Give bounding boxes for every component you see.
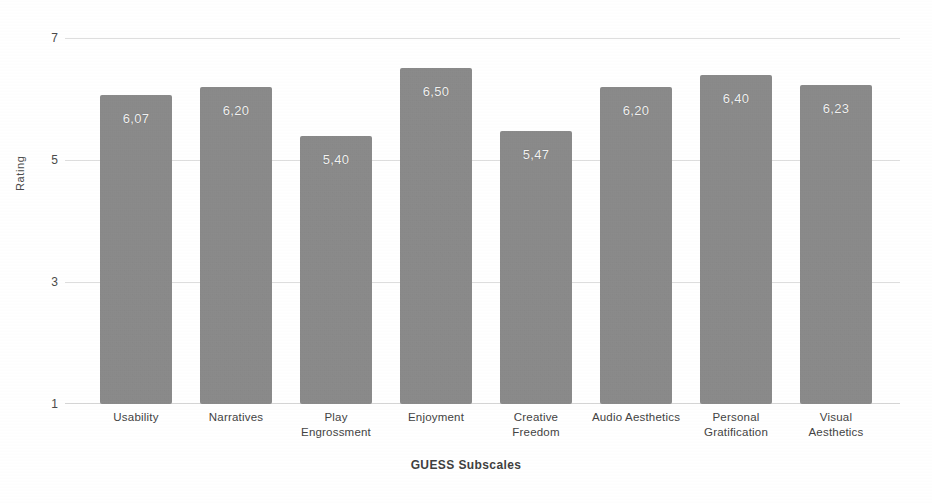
- x-label-play-engrossment-line2: Engrossment: [290, 425, 382, 440]
- x-label-usability-line1: Usability: [90, 410, 182, 425]
- x-label-usability: Usability: [90, 410, 182, 425]
- bar-group-usability: 6,07: [100, 38, 172, 404]
- plot-area: 6,07 6,20 5,40 6,50 5,47: [65, 38, 900, 404]
- bar-play-engrossment[interactable]: 5,40: [300, 136, 372, 404]
- x-label-visual-aesthetics: Visual Aesthetics: [790, 410, 882, 440]
- bar-group-audio-aesthetics: 6,20: [600, 38, 672, 404]
- x-label-enjoyment-line1: Enjoyment: [390, 410, 482, 425]
- bar-audio-aesthetics[interactable]: 6,20: [600, 87, 672, 404]
- bar-enjoyment[interactable]: 6,50: [400, 68, 472, 404]
- y-tick-3: 3: [12, 275, 58, 289]
- bar-creative-freedom[interactable]: 5,47: [500, 131, 572, 404]
- x-label-personal-gratification-line1: Personal: [686, 410, 786, 425]
- bar-chart: 7 5 3 1 Rating 6,07 6,20 5,40: [0, 0, 932, 503]
- y-axis-ticks: 7 5 3 1: [0, 38, 58, 404]
- bar-value-enjoyment: 6,50: [400, 84, 472, 99]
- x-label-creative-freedom-line2: Freedom: [490, 425, 582, 440]
- bar-value-visual-aesthetics: 6,23: [800, 101, 872, 116]
- x-label-play-engrossment-line1: Play: [290, 410, 382, 425]
- bar-value-usability: 6,07: [100, 111, 172, 126]
- x-label-creative-freedom: Creative Freedom: [490, 410, 582, 440]
- bar-group-personal-gratification: 6,40: [700, 38, 772, 404]
- bar-group-play-engrossment: 5,40: [300, 38, 372, 404]
- bar-usability[interactable]: 6,07: [100, 95, 172, 404]
- bar-value-creative-freedom: 5,47: [500, 147, 572, 162]
- x-label-play-engrossment: Play Engrossment: [290, 410, 382, 440]
- x-label-enjoyment: Enjoyment: [390, 410, 482, 425]
- bar-narratives[interactable]: 6,20: [200, 87, 272, 404]
- bar-group-enjoyment: 6,50: [400, 38, 472, 404]
- bar-value-personal-gratification: 6,40: [700, 91, 772, 106]
- bar-visual-aesthetics[interactable]: 6,23: [800, 85, 872, 404]
- x-label-personal-gratification-line2: Gratification: [686, 425, 786, 440]
- y-tick-1: 1: [12, 397, 58, 411]
- x-axis-labels: Usability Narratives Play Engrossment En…: [65, 410, 900, 456]
- bar-personal-gratification[interactable]: 6,40: [700, 75, 772, 404]
- bar-value-narratives: 6,20: [200, 103, 272, 118]
- x-label-audio-aesthetics: Audio Aesthetics: [586, 410, 686, 425]
- x-label-narratives-line1: Narratives: [190, 410, 282, 425]
- bar-group-narratives: 6,20: [200, 38, 272, 404]
- x-label-narratives: Narratives: [190, 410, 282, 425]
- x-label-audio-aesthetics-line1: Audio Aesthetics: [586, 410, 686, 425]
- bars-layer: 6,07 6,20 5,40 6,50 5,47: [65, 38, 900, 404]
- bar-group-visual-aesthetics: 6,23: [800, 38, 872, 404]
- x-label-visual-aesthetics-line2: Aesthetics: [790, 425, 882, 440]
- x-label-personal-gratification: Personal Gratification: [686, 410, 786, 440]
- bar-group-creative-freedom: 5,47: [500, 38, 572, 404]
- y-tick-7: 7: [12, 31, 58, 45]
- x-axis-title: GUESS Subscales: [0, 458, 932, 472]
- bar-value-audio-aesthetics: 6,20: [600, 103, 672, 118]
- x-label-visual-aesthetics-line1: Visual: [790, 410, 882, 425]
- bar-value-play-engrossment: 5,40: [300, 152, 372, 167]
- x-label-creative-freedom-line1: Creative: [490, 410, 582, 425]
- y-axis-title: Rating: [14, 156, 26, 191]
